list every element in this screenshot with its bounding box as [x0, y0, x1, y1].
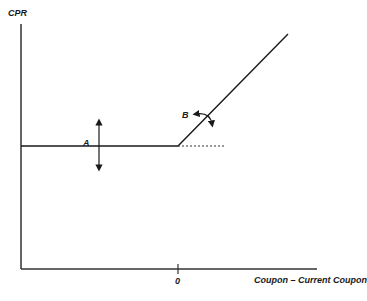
- annotation-b: B: [182, 110, 189, 120]
- zero-tick-label: 0: [175, 276, 180, 286]
- cpr-curve: [21, 34, 288, 146]
- x-axis-label: Coupon – Current Coupon: [254, 275, 367, 285]
- annotation-a: A: [83, 138, 90, 148]
- y-axis-label: CPR: [8, 8, 27, 18]
